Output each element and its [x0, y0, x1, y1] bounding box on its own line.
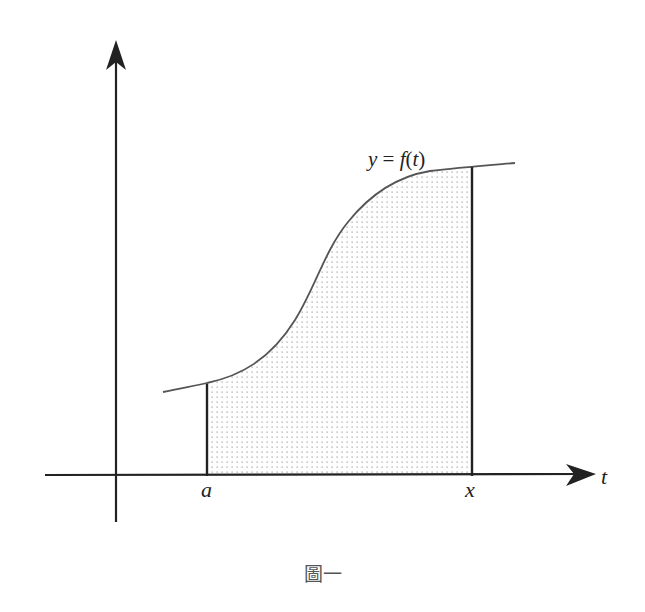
function-label-close: ): [418, 147, 425, 171]
tick-label-a: a: [201, 477, 212, 502]
tick-label-x: x: [464, 477, 475, 502]
function-label-open: (: [406, 147, 413, 171]
figure-caption: 圖一: [0, 559, 645, 586]
x-axis: [45, 474, 588, 475]
axis-label-t: t: [601, 464, 608, 489]
shaded-area: [207, 160, 472, 475]
function-label: y = f(t): [366, 147, 425, 171]
function-label-y: y: [366, 147, 378, 171]
function-label-eq: =: [377, 147, 399, 171]
integral-diagram: a x t y = f(t): [0, 0, 645, 612]
